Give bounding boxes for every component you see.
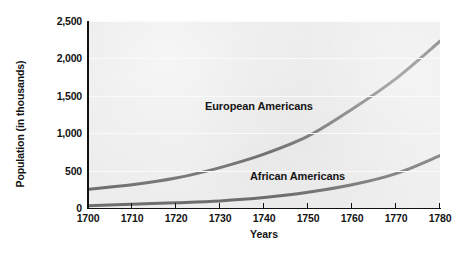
gridline-2500 <box>88 21 440 22</box>
series-line-european-americans <box>88 41 440 189</box>
x-tick-label-1710: 1710 <box>109 212 155 224</box>
x-tick-1750 <box>307 203 308 208</box>
gridline-1500 <box>88 96 440 97</box>
x-tick-1700 <box>87 203 88 208</box>
plot-area: European Americans African Americans <box>88 21 440 208</box>
y-tick-label-2500: 2,500 <box>36 15 82 27</box>
x-tick-label-1760: 1760 <box>329 212 375 224</box>
x-tick-label-1740: 1740 <box>241 212 287 224</box>
y-tick-label-500: 500 <box>36 165 82 177</box>
x-tick-label-1750: 1750 <box>285 212 331 224</box>
y-axis-line <box>87 21 89 209</box>
x-tick-label-1730: 1730 <box>197 212 243 224</box>
x-tick-1780 <box>439 203 440 208</box>
y-tick-label-1500: 1,500 <box>36 90 82 102</box>
x-tick-label-1720: 1720 <box>153 212 199 224</box>
y-tick-label-2000: 2,000 <box>36 52 82 64</box>
x-tick-1730 <box>219 203 220 208</box>
series-annotation-african-americans: African Americans <box>250 170 345 182</box>
x-tick-label-1780: 1780 <box>417 212 463 224</box>
x-tick-1720 <box>175 203 176 208</box>
x-tick-1760 <box>351 203 352 208</box>
y-axis-title: Population (in thousands) <box>8 38 30 210</box>
x-tick-1710 <box>131 203 132 208</box>
gridline-1000 <box>88 133 440 134</box>
population-growth-line-chart: Population (in thousands) 2,500 2,000 1,… <box>0 0 474 254</box>
series-annotation-european-americans: European Americans <box>205 100 313 112</box>
x-tick-1770 <box>395 203 396 208</box>
x-tick-label-1770: 1770 <box>373 212 419 224</box>
x-axis-title: Years <box>88 228 440 240</box>
x-tick-label-1700: 1700 <box>65 212 111 224</box>
gridline-2000 <box>88 58 440 59</box>
y-axis-title-text: Population (in thousands) <box>13 61 25 188</box>
x-tick-1740 <box>263 203 264 208</box>
y-tick-label-1000: 1,000 <box>36 127 82 139</box>
